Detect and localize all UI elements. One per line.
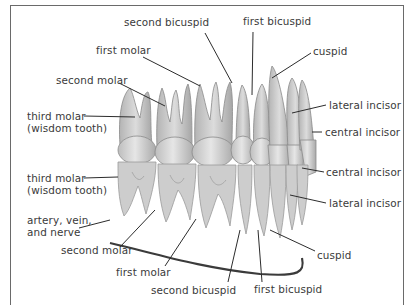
label-lower-second-bicuspid: second bicuspid	[151, 284, 236, 296]
label-lower-second-molar: second molar	[61, 244, 133, 256]
label-lower-cuspid: cuspid	[317, 249, 351, 261]
label-upper-second-bicuspid: second bicuspid	[124, 16, 209, 28]
upper-teeth	[118, 66, 316, 178]
label-lower-third-molar: third molar	[27, 172, 86, 184]
label-upper-first-molar: first molar	[96, 44, 151, 56]
label-upper-central-incisor: central incisor	[325, 126, 400, 138]
label-lower-wisdom-tooth: (wisdom tooth)	[27, 184, 107, 196]
lower-teeth	[118, 162, 308, 238]
label-lower-first-bicuspid: first bicuspid	[254, 283, 322, 295]
label-lower-and-nerve: and nerve	[27, 226, 81, 238]
label-lower-lateral-incisor: lateral incisor	[329, 197, 401, 209]
label-upper-lateral-incisor: lateral incisor	[329, 99, 401, 111]
label-lower-central-incisor: central incisor	[326, 166, 401, 178]
label-upper-wisdom-tooth: (wisdom tooth)	[27, 122, 107, 134]
label-lower-artery-vein: artery, vein,	[27, 214, 92, 226]
label-upper-first-bicuspid: first bicuspid	[243, 15, 311, 27]
label-lower-first-molar: first molar	[116, 266, 171, 278]
label-upper-third-molar: third molar	[27, 110, 86, 122]
label-upper-cuspid: cuspid	[313, 45, 347, 57]
label-upper-second-molar: second molar	[56, 74, 128, 86]
